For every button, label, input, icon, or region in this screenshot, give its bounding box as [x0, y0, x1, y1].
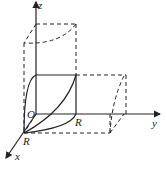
- solid-face: [36, 75, 76, 114]
- origin-label: O: [27, 108, 35, 120]
- z-label: z: [37, 0, 43, 11]
- y-label: y: [151, 117, 157, 129]
- radius-label-x: R: [22, 135, 30, 147]
- curve-1: [24, 75, 36, 133]
- coordinate-diagram: z y x O R R: [0, 0, 166, 173]
- curve-2: [24, 75, 76, 133]
- radius-label-y: R: [74, 116, 82, 128]
- x-label: x: [14, 150, 20, 162]
